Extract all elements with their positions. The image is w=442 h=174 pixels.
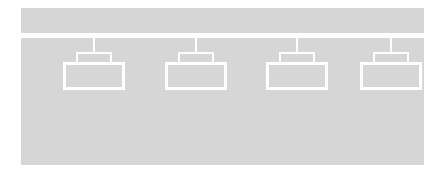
node-group-4[interactable] — [343, 38, 439, 98]
node-group-3[interactable] — [249, 38, 345, 98]
node-body-box — [165, 62, 227, 90]
node-body-box — [266, 62, 328, 90]
diagram-canvas — [0, 0, 442, 174]
node-group-2[interactable] — [148, 38, 244, 98]
node-body-box — [360, 62, 422, 90]
main-panel — [21, 38, 424, 165]
node-body-box — [63, 62, 125, 90]
node-group-1[interactable] — [46, 38, 142, 98]
header-bar — [21, 8, 424, 33]
